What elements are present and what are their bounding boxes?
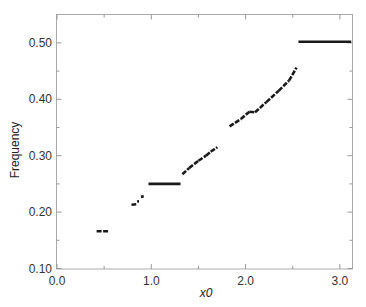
x-tick-label: 2.0 (237, 274, 254, 288)
y-axis-title: Frequency (8, 122, 22, 179)
data-segment (198, 156, 206, 161)
x-tick-label: 3.0 (332, 274, 349, 288)
x-axis-ticks: 0.01.02.03.0 (49, 15, 349, 289)
data-segment (241, 112, 249, 119)
data-segment (266, 91, 278, 102)
y-tick-label: 0.30 (29, 149, 53, 163)
x-axis-title: x0 (199, 286, 213, 300)
data-segment (255, 102, 266, 112)
data-segment (289, 68, 297, 81)
data-segment (189, 161, 198, 168)
data-segment (211, 147, 218, 152)
data-segment (141, 196, 144, 197)
data-series (97, 42, 352, 232)
frequency-chart: 0.01.02.03.0 0.100.200.300.400.50 x0 Fre… (0, 0, 366, 307)
x-tick-label: 0.0 (49, 274, 66, 288)
data-segment (249, 112, 255, 113)
y-tick-label: 0.50 (29, 36, 53, 50)
data-segment (279, 81, 289, 91)
data-segment (182, 168, 189, 174)
data-segment (206, 152, 211, 156)
x-tick-label: 1.0 (143, 274, 160, 288)
data-segment (230, 119, 241, 126)
y-axis-ticks: 0.100.200.300.400.50 (29, 36, 353, 276)
y-tick-label: 0.40 (29, 92, 53, 106)
y-tick-label: 0.20 (29, 205, 53, 219)
data-segment (131, 204, 136, 205)
y-tick-label: 0.10 (29, 262, 53, 276)
